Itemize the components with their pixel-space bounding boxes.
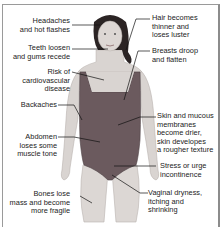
label-backaches: Backaches [4, 101, 57, 110]
label-line: shrinking [148, 206, 202, 215]
label-line: incontinence [160, 171, 206, 180]
label-line: and gums recede [4, 53, 70, 62]
label-line: more fragile [4, 207, 70, 216]
label-vaginal: Vaginal dryness, itching and shrinking [148, 189, 202, 215]
shoulders [78, 50, 142, 72]
label-bones: Bones lose mass and become more fragile [4, 190, 70, 216]
label-headaches: Headaches and hot flashes [6, 17, 70, 34]
label-line: Backaches [4, 101, 57, 110]
label-line: disease [4, 85, 70, 94]
label-line: and hot flashes [6, 26, 70, 35]
label-line: and flatten [152, 56, 198, 65]
label-incontinence: Stress or urge incontinence [160, 162, 206, 179]
label-skin: Skin and mucous membranes become drier, … [157, 112, 214, 155]
label-hair: Hair becomes thinner and loses luster [152, 14, 198, 40]
label-line: a rougher texture [157, 146, 214, 155]
label-abdomen: Abdomen loses some muscle tone [4, 133, 57, 159]
face [98, 21, 122, 51]
label-teeth: Teeth loosen and gums recede [4, 44, 70, 61]
label-line: muscle tone [4, 150, 57, 159]
label-breasts: Breasts droop and flatten [152, 47, 198, 64]
label-line: loses luster [152, 31, 198, 40]
label-cardio: Risk of cardiovascular disease [4, 68, 70, 94]
right-arm [140, 70, 159, 180]
